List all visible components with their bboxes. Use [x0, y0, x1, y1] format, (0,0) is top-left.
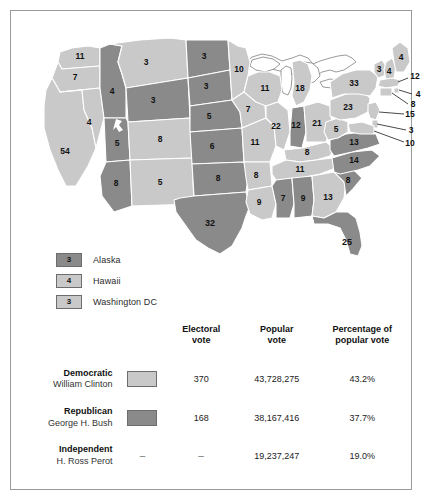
label-WA: 11 [76, 51, 85, 61]
percentage-independent: 19.0% [317, 437, 409, 475]
header-electoral-vote: Electoral vote [165, 324, 237, 361]
header-popular-line1: Popular [260, 324, 294, 334]
swatch-cell-independent: – [120, 437, 166, 475]
label-DE: 3 [409, 125, 414, 135]
label-GA: 13 [323, 192, 333, 202]
label-UT: 5 [115, 138, 120, 148]
label-AZ: 8 [114, 178, 119, 188]
party-name: Republican [24, 406, 113, 418]
legend-item-alaska: 3 Alaska [56, 251, 236, 268]
label-IA: 7 [246, 104, 251, 114]
state-RI [394, 88, 399, 93]
label-MI: 18 [295, 83, 305, 93]
label-ND: 3 [202, 51, 207, 61]
label-NH: 4 [387, 66, 392, 76]
label-NY: 33 [349, 78, 359, 88]
legend-item-washington-dc: 3 Washington DC [56, 293, 236, 310]
label-NM: 5 [158, 177, 163, 187]
label-WY: 3 [151, 95, 156, 105]
table-row: Republican George H. Bush 168 38,167,416… [24, 399, 408, 437]
election-results-table: Electoral vote Popular vote Percentage o… [24, 324, 408, 476]
header-electoral-line2: vote [192, 335, 211, 345]
table-row: Independent H. Ross Perot – – 19,237,247… [24, 437, 408, 475]
table-body: Democratic William Clinton 370 43,728,27… [24, 361, 408, 476]
legend-swatch-hawaii: 4 [56, 274, 82, 288]
label-MS: 7 [281, 193, 286, 203]
state-NJ [368, 102, 380, 120]
popular-vote-independent: 19,237,247 [237, 437, 317, 475]
header-percentage-line2: popular vote [335, 335, 389, 345]
swatch-cell-democratic [120, 361, 166, 399]
label-MO: 11 [251, 137, 260, 147]
party-cell-independent: Independent H. Ross Perot [24, 437, 120, 475]
legend-label-hawaii: Hawaii [93, 276, 121, 286]
party-name: Democratic [24, 368, 113, 380]
electoral-vote-independent: – [165, 437, 237, 475]
color-swatch-republican [127, 410, 157, 426]
header-percentage-line1: Percentage of [332, 324, 392, 334]
label-SD: 3 [204, 81, 209, 91]
label-NJ: 15 [405, 109, 415, 119]
state-MA [378, 78, 400, 88]
table-row: Democratic William Clinton 370 43,728,27… [24, 361, 408, 399]
label-PA: 23 [343, 102, 353, 112]
header-percentage: Percentage of popular vote [317, 324, 409, 361]
label-OR: 7 [73, 72, 78, 82]
legend-swatch-washington-dc: 3 [56, 295, 82, 309]
header-electoral-line1: Electoral [182, 324, 220, 334]
label-LA: 9 [257, 197, 262, 207]
label-ID: 4 [110, 86, 115, 96]
label-KY: 8 [305, 147, 310, 157]
legend-item-hawaii: 4 Hawaii [56, 272, 236, 289]
electoral-vote-republican: 168 [165, 399, 237, 437]
label-FL: 25 [342, 237, 352, 247]
electoral-vote-democratic: 370 [165, 361, 237, 399]
label-NE: 5 [207, 111, 212, 121]
label-WV: 5 [334, 124, 339, 134]
header-popular-vote: Popular vote [237, 324, 317, 361]
table-header-row: Electoral vote Popular vote Percentage o… [24, 324, 408, 361]
label-AL: 9 [301, 193, 306, 203]
state-CT [380, 88, 392, 96]
candidate-name: H. Ross Perot [24, 456, 113, 468]
swatch-cell-republican [120, 399, 166, 437]
label-CO: 8 [158, 134, 163, 144]
header-party-spacer [24, 324, 120, 361]
party-cell-republican: Republican George H. Bush [24, 399, 120, 437]
label-NV: 4 [87, 117, 92, 127]
label-WI: 11 [261, 83, 270, 93]
legend-label-alaska: Alaska [93, 255, 121, 265]
label-ME: 4 [399, 52, 404, 62]
percentage-republican: 37.7% [317, 399, 409, 437]
label-CA: 54 [60, 146, 70, 156]
popular-vote-republican: 38,167,416 [237, 399, 317, 437]
label-VA: 13 [349, 137, 359, 147]
party-name: Independent [24, 444, 113, 456]
header-swatch-spacer [120, 324, 166, 361]
label-TX: 32 [205, 218, 215, 228]
color-swatch-democratic [127, 371, 157, 387]
label-MT: 3 [144, 57, 149, 67]
label-MN: 10 [234, 64, 244, 74]
state-KS [190, 128, 244, 164]
state-NE [190, 100, 242, 132]
label-MA: 12 [410, 71, 420, 81]
label-NC: 14 [349, 155, 359, 165]
label-VT: 3 [377, 64, 382, 74]
label-CT: 8 [411, 99, 416, 109]
label-RI: 4 [416, 89, 421, 99]
table-header: Electoral vote Popular vote Percentage o… [24, 324, 408, 361]
label-KS: 6 [210, 141, 215, 151]
header-popular-line2: vote [267, 335, 286, 345]
state-FL [312, 212, 362, 256]
label-OH: 21 [312, 118, 322, 128]
state-MD [348, 122, 374, 134]
party-cell-democratic: Democratic William Clinton [24, 361, 120, 399]
label-IL: 22 [271, 121, 281, 131]
candidate-name: William Clinton [24, 379, 113, 391]
label-AR: 8 [254, 170, 259, 180]
label-OK: 8 [216, 173, 221, 183]
results-table: Electoral vote Popular vote Percentage o… [24, 324, 408, 476]
map-legend: 3 Alaska 4 Hawaii 3 Washington DC [56, 251, 236, 314]
legend-label-washington-dc: Washington DC [93, 297, 157, 307]
